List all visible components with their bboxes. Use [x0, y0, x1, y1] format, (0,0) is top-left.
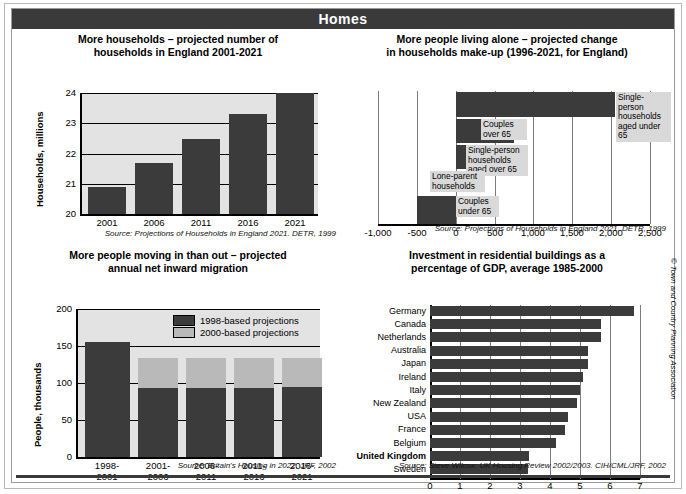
- bar-dark-2011-2016: [234, 388, 274, 457]
- axis-y-line: [80, 93, 82, 215]
- vgridline-7: [640, 305, 641, 479]
- legend-row-2000: 2000-based projections: [173, 327, 315, 338]
- vgridline-6: [610, 305, 611, 479]
- catlabel-japan: Japan: [344, 358, 426, 368]
- chart-migration-title: More people moving in than out – project…: [18, 249, 338, 275]
- callout-couples-over-65: Couples over 65: [481, 119, 527, 140]
- page-header: Homes: [12, 9, 674, 29]
- xtick-inv-1: 1: [450, 480, 470, 491]
- bar-dark-2016-2021: [282, 387, 322, 457]
- chart-migration-plot: People, thousands 200 150 100 50 0: [18, 275, 338, 475]
- chart-living-alone-plot: Single-person households aged under 65 C…: [344, 59, 670, 229]
- xtick-inv-2: 2: [480, 480, 500, 491]
- chart-investment-plot: Germany Canada Netherlands Australia Jap…: [344, 275, 670, 490]
- xtick-inv-7: 7: [630, 480, 650, 491]
- chart-migration-legend: 1998-based projections 2000-based projec…: [170, 313, 318, 340]
- bar-france: [430, 425, 565, 435]
- catlabel-netherlands: Netherlands: [344, 332, 426, 342]
- bar-italy: [430, 385, 580, 395]
- xtick-inv-5: 5: [570, 480, 590, 491]
- chart-migration: More people moving in than out – project…: [18, 247, 338, 477]
- ytick-22: 22: [52, 148, 76, 159]
- chart-investment-title: Investment in residential buildings as a…: [344, 249, 670, 275]
- xtick-2011: 2011: [178, 217, 224, 228]
- chart-households-title: More households – projected number of ho…: [18, 33, 338, 59]
- chart-living-alone-source: Source: Projections of Households in Eng…: [344, 224, 666, 233]
- xtick-inv-3: 3: [510, 480, 530, 491]
- bar-ireland: [430, 372, 583, 382]
- chart-investment: Investment in residential buildings as a…: [344, 247, 670, 477]
- panel-body: More households – projected number of ho…: [12, 29, 674, 481]
- catlabel-germany: Germany: [344, 306, 426, 316]
- legend-label-1998: 1998-based projections: [200, 315, 299, 326]
- copyright-label: © Town and Country Planning Association: [669, 258, 678, 399]
- ytick-100: 100: [46, 377, 72, 388]
- ytick-200: 200: [46, 303, 72, 314]
- bar-dark-2001-2006: [138, 388, 178, 457]
- axis-y-line: [76, 309, 78, 458]
- callout-lone-parent: Lone-parent households: [430, 171, 485, 192]
- vgridline--1000: [378, 91, 379, 224]
- ytick-23: 23: [52, 117, 76, 128]
- catlabel-belgium: Belgium: [344, 438, 426, 448]
- xtick-2016: 2016: [225, 217, 271, 228]
- ytick-50: 50: [46, 414, 72, 425]
- bar-2001: [88, 187, 126, 214]
- bar-couples-under-65: [417, 196, 456, 224]
- chart-living-alone-title: More people living alone – projected cha…: [344, 33, 670, 59]
- catlabel-new-zealand: New Zealand: [344, 398, 426, 408]
- chart-households-source: Source: Projections of Households in Eng…: [18, 229, 336, 238]
- chart-living-alone: More people living alone – projected cha…: [344, 31, 670, 253]
- callout-couples-under-65: Couples under 65: [456, 196, 499, 217]
- xtick-2001: 2001: [84, 217, 130, 228]
- bar-canada: [430, 319, 601, 329]
- chart-households-plot: Households, millions 24 23 22 21 20: [18, 59, 338, 219]
- bar-2021: [276, 93, 314, 214]
- bar-dark-2006-2011: [186, 388, 226, 457]
- legend-swatch-1998: [173, 315, 195, 326]
- bar-2006: [135, 163, 173, 214]
- bar-united-kingdom: [430, 451, 529, 461]
- bar-australia: [430, 346, 588, 356]
- bar-2011: [182, 139, 220, 214]
- bar-germany: [430, 306, 634, 316]
- ytick-21: 21: [52, 178, 76, 189]
- chart-migration-ylabel: People, thousands: [32, 363, 43, 447]
- xtick-2006: 2006: [131, 217, 177, 228]
- legend-row-1998: 1998-based projections: [173, 315, 315, 326]
- bar-2016: [229, 114, 267, 214]
- ytick-24: 24: [52, 87, 76, 98]
- catlabel-italy: Italy: [344, 385, 426, 395]
- catlabel-usa: USA: [344, 411, 426, 421]
- legend-swatch-2000: [173, 327, 195, 338]
- bar-new-zealand: [430, 398, 577, 408]
- page-title: Homes: [318, 11, 367, 27]
- vgridline-5: [580, 305, 581, 479]
- xtick-inv-6: 6: [600, 480, 620, 491]
- bottom-divider: [16, 475, 670, 478]
- xtick-inv-0: 0: [420, 480, 440, 491]
- catlabel-canada: Canada: [344, 319, 426, 329]
- catlabel-united-kingdom: United Kingdom: [344, 451, 426, 461]
- callout-single-person-under-65: Single-person households aged under 65: [616, 92, 671, 142]
- bar-single-person-under-65: [456, 92, 615, 117]
- bar-usa: [430, 412, 568, 422]
- chart-investment-source: Source: Steve Wilcox: UK Housing Review …: [344, 461, 666, 470]
- bar-netherlands: [430, 332, 601, 342]
- axis-x-line: [76, 457, 320, 459]
- ytick-150: 150: [46, 340, 72, 351]
- xtick-2021: 2021: [272, 217, 318, 228]
- ytick-20: 20: [52, 208, 76, 219]
- bar-japan: [430, 359, 588, 369]
- infographic-page: Homes More households – projected number…: [0, 0, 686, 494]
- chart-migration-source: Source: Britain's Housing in 2022, JRF, …: [18, 461, 336, 470]
- catlabel-australia: Australia: [344, 345, 426, 355]
- gridline-200: [76, 309, 320, 310]
- axis-x-line: [80, 214, 318, 216]
- legend-label-2000: 2000-based projections: [200, 327, 299, 338]
- xtick-inv-4: 4: [540, 480, 560, 491]
- catlabel-ireland: Ireland: [344, 372, 426, 382]
- chart-households-ylabel: Households, millions: [34, 111, 45, 207]
- bar-belgium: [430, 438, 556, 448]
- catlabel-france: France: [344, 424, 426, 434]
